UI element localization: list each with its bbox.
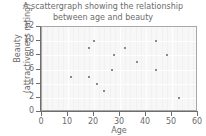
x-axis-tick-label: 20 xyxy=(83,117,103,126)
x-axis-tick xyxy=(197,112,198,116)
gridline-horizontal xyxy=(42,84,196,85)
data-point xyxy=(93,40,95,42)
gridline-horizontal xyxy=(42,98,196,99)
x-axis-tick xyxy=(67,112,68,116)
y-axis-tick xyxy=(36,26,40,27)
data-point xyxy=(96,83,98,85)
data-point xyxy=(166,54,168,56)
x-axis-tick-label: 0 xyxy=(31,117,51,126)
data-point xyxy=(88,76,90,78)
data-point xyxy=(124,47,126,49)
y-axis-title-group: Beauty xyxy=(0,44,67,56)
x-axis-tick xyxy=(119,112,120,116)
data-point xyxy=(103,90,105,92)
y-axis-title-line-2: (attractiveness rating) xyxy=(23,0,32,99)
y-axis-tick xyxy=(36,97,40,98)
x-axis-tick xyxy=(41,112,42,116)
x-axis-tick-label: 50 xyxy=(161,117,181,126)
y-axis-title-line-1: Beauty xyxy=(13,0,22,99)
y-axis-tick xyxy=(36,40,40,41)
gridline-horizontal xyxy=(42,41,196,42)
data-point xyxy=(178,97,180,99)
gridline-horizontal xyxy=(42,70,196,71)
y-axis-tick-label: 0 xyxy=(12,107,34,115)
data-point xyxy=(88,47,90,49)
x-axis-tick-label: 10 xyxy=(57,117,77,126)
x-axis-tick xyxy=(93,112,94,116)
data-point xyxy=(70,76,72,78)
scattergraph-figure: A scattergraph showing the relationship … xyxy=(0,0,206,136)
data-point xyxy=(136,61,138,63)
plot-area xyxy=(41,26,197,111)
x-axis-tick-label: 40 xyxy=(135,117,155,126)
x-axis-tick xyxy=(171,112,172,116)
data-point xyxy=(155,69,157,71)
y-axis-tick xyxy=(36,83,40,84)
data-point xyxy=(113,54,115,56)
y-axis-line xyxy=(40,26,41,112)
y-axis-tick xyxy=(36,69,40,70)
x-axis-title: Age xyxy=(41,126,197,135)
data-point xyxy=(155,40,157,42)
x-axis-tick-label: 60 xyxy=(187,117,206,126)
data-point xyxy=(111,69,113,71)
x-axis-tick xyxy=(145,112,146,116)
x-axis-tick-label: 30 xyxy=(109,117,129,126)
